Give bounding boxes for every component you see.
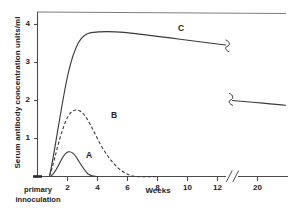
y-axis-title: Serum antibody concentration units/ml (13, 13, 22, 173)
x-tick-label-12: 12 (211, 184, 225, 192)
series-curve-c-segment-1 (50, 32, 226, 176)
origin-annotation-line-2: innoculation (1, 195, 75, 205)
curve-c-break-mark-upper (226, 40, 230, 52)
curve-label-c: C (178, 24, 184, 33)
antibody-response-chart: 4 3 2 1 2 4 6 8 10 12 20 A B C Serum ant… (0, 0, 296, 218)
plot-frame-top (37, 12, 286, 14)
series-curve-c-segment-2 (233, 101, 286, 106)
origin-annotation: primary innoculation (1, 185, 75, 205)
x-axis-break-slash-1 (227, 171, 233, 182)
x-axis-title: Weeks (132, 186, 184, 195)
x-tick-label-4: 4 (91, 184, 105, 192)
origin-annotation-line-1: primary (1, 185, 75, 195)
curve-label-b: B (111, 111, 117, 120)
curve-c-break-mark-lower (229, 94, 233, 106)
curve-label-a: A (86, 151, 92, 160)
x-tick-label-20: 20 (251, 184, 265, 192)
series-curve-b (50, 110, 158, 177)
x-axis-break-slash-2 (233, 171, 239, 182)
